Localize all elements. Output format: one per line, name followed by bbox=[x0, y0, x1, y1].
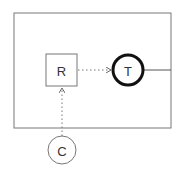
node-t-label: T bbox=[124, 64, 132, 79]
diagram-canvas: R T C bbox=[0, 0, 183, 177]
node-t: T bbox=[113, 55, 143, 85]
node-c-label: C bbox=[57, 144, 66, 159]
node-r: R bbox=[46, 54, 77, 86]
node-r-label: R bbox=[57, 64, 66, 79]
node-c: C bbox=[48, 136, 76, 164]
